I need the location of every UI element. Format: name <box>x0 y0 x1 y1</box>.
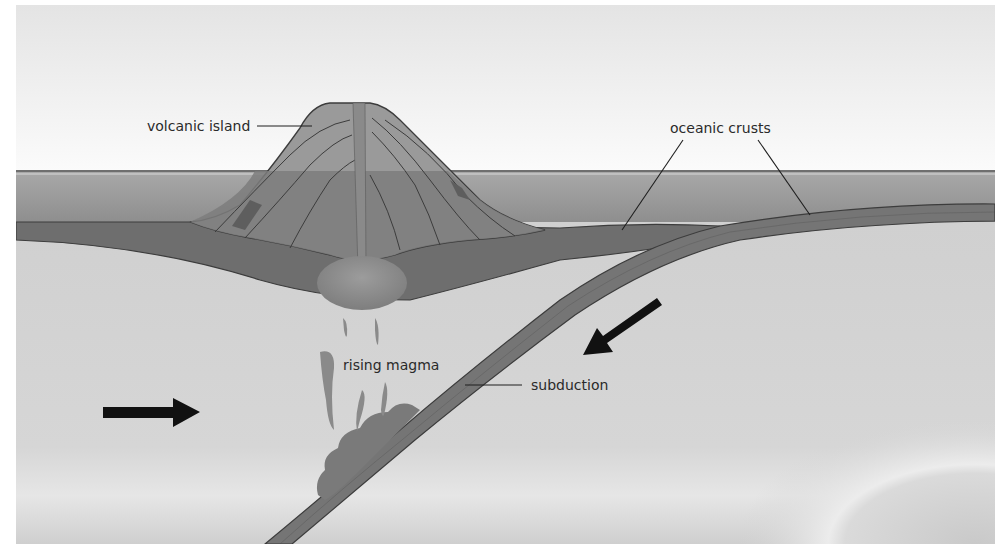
label-rising-magma: rising magma <box>343 357 439 373</box>
label-subduction: subduction <box>531 377 608 393</box>
mantle-glow <box>600 330 995 544</box>
label-oceanic-crusts: oceanic crusts <box>670 120 771 136</box>
subduction-diagram: volcanic island oceanic crusts rising ma… <box>0 0 997 544</box>
magma-chamber <box>317 256 407 310</box>
label-volcanic-island: volcanic island <box>147 118 250 134</box>
diagram-canvas: volcanic island oceanic crusts rising ma… <box>0 0 997 544</box>
sky <box>16 5 995 171</box>
